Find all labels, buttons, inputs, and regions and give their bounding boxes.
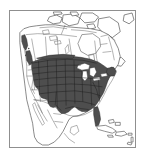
island-bahamas-a: [108, 119, 114, 123]
island-greenland-edge: [123, 13, 134, 24]
island-banks: [47, 15, 62, 24]
island-victoria: [62, 14, 80, 26]
border-yucatan: [70, 125, 79, 135]
north-america-range-map[interactable]: [10, 11, 135, 147]
island-trinidad: [127, 142, 132, 145]
caribbean-islands-group: [97, 119, 133, 145]
range-florida-peninsula: [94, 107, 101, 127]
island-cuba: [97, 125, 117, 133]
island-bahamas-b: [115, 122, 120, 125]
island-hispaniola: [115, 131, 127, 136]
island-arctic-ne: [80, 13, 99, 23]
island-lesser-antilles: [131, 137, 133, 142]
island-jamaica: [107, 135, 113, 137]
map-figure-frame: [9, 10, 136, 148]
island-puerto-rico: [128, 133, 132, 135]
island-arctic-small-b: [53, 12, 62, 15]
range-speck-coast-c: [28, 48, 30, 50]
water-lake-ontario: [101, 73, 108, 77]
